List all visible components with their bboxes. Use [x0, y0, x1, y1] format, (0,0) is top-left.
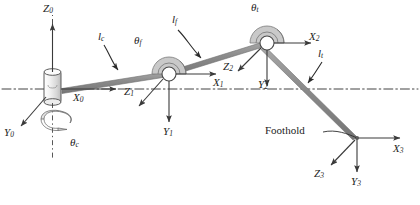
- tibia-joint-pivot: [260, 36, 274, 50]
- axis-label-z3: Z3: [314, 168, 324, 180]
- axis-label-y1: Y1: [163, 126, 173, 138]
- base-joint-cylinder: [44, 69, 61, 106]
- foothold-label: Foothold: [265, 125, 305, 136]
- theta-c-rotation-arrow: [41, 110, 71, 130]
- axis-label-y0: Y0: [4, 127, 14, 139]
- axis-label-x3: X3: [393, 143, 403, 155]
- angle-label-theta-f: θf: [134, 35, 142, 47]
- frame-1-axes: [139, 74, 216, 122]
- link-label-lt: lt: [318, 48, 323, 60]
- diagram-canvas: Z0 X0 Y0 θc X1 Y1 Z1 θf X2 Y2 Z2 θt X3 Y…: [0, 0, 420, 205]
- axis-label-x0: X0: [73, 92, 83, 104]
- axis-label-z0: Z0: [43, 3, 53, 15]
- axis-label-y2: Y2: [258, 79, 268, 91]
- lt-leader-arrow: [308, 62, 322, 83]
- link-label-lf: lf: [172, 14, 177, 26]
- lc-leader-arrow: [104, 45, 118, 70]
- frame-3-axes: [331, 136, 400, 172]
- femur-joint-pivot: [162, 67, 176, 81]
- axis-label-y3: Y3: [351, 176, 361, 188]
- axis-label-z2: Z2: [223, 61, 233, 73]
- angle-label-theta-c: θc: [70, 137, 79, 149]
- lf-leader-arrow: [178, 30, 201, 58]
- link-label-lc: lc: [98, 31, 104, 43]
- angle-label-theta-t: θt: [251, 2, 259, 14]
- axis-label-x1: X1: [213, 77, 223, 89]
- axis-label-z1: Z1: [124, 86, 134, 98]
- axis-label-x2: X2: [309, 31, 319, 43]
